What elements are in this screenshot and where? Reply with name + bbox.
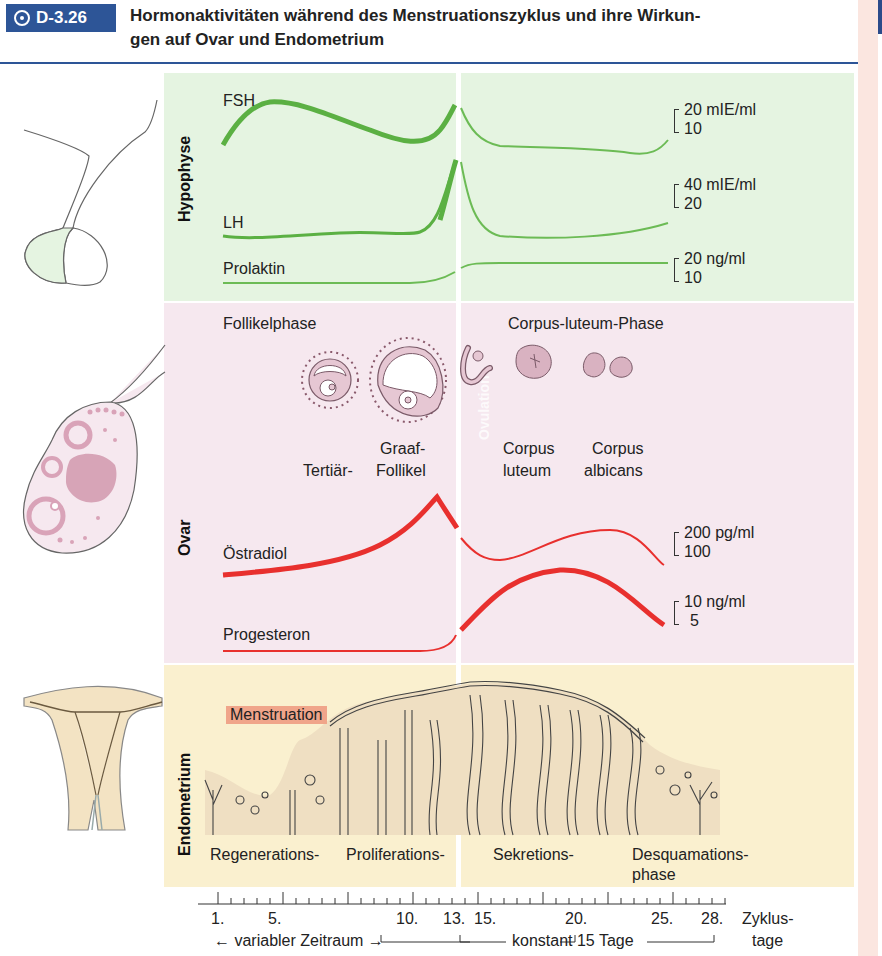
axis-unit-1: Zyklus-: [742, 910, 794, 928]
axis-tick-13: 13.: [443, 910, 465, 928]
variable-period-label: ← variabler Zeitraum →: [214, 932, 384, 950]
axis-unit-2: tage: [752, 932, 783, 950]
axis-tick-20: 20.: [565, 910, 587, 928]
axis-tick-5: 5.: [268, 910, 281, 928]
cycle-axis: [0, 0, 882, 956]
axis-tick-10: 10.: [396, 910, 418, 928]
constant-period-label: konstant 15 Tage: [512, 932, 634, 950]
axis-tick-1: 1.: [211, 910, 224, 928]
axis-tick-25: 25.: [651, 910, 673, 928]
axis-tick-15: 15.: [474, 910, 496, 928]
axis-tick-28: 28.: [701, 910, 723, 928]
